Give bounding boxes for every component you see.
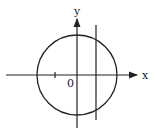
x-axis-label: x [142, 69, 149, 82]
coordinate-diagram: x y 0 [0, 0, 155, 135]
y-axis-label: y [73, 5, 81, 18]
origin-label: 0 [67, 77, 74, 90]
